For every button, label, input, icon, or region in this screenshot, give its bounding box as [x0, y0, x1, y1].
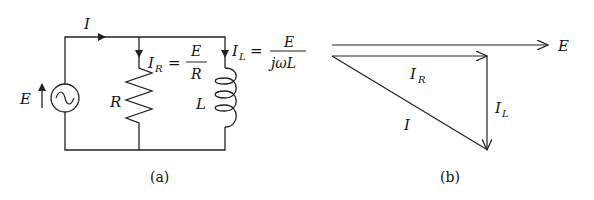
phasor-diagram: E I R I L I (b)	[332, 37, 569, 185]
inductor-label: L	[195, 95, 206, 113]
ir-subscript: R	[154, 63, 163, 74]
source-label: E	[19, 90, 31, 108]
resistor-label: R	[109, 93, 121, 111]
bottom-wire	[65, 112, 225, 150]
il-equals: =	[250, 42, 263, 60]
il-subscript: L	[238, 51, 246, 62]
ir-denominator: R	[190, 66, 202, 82]
ir-arrow-icon	[135, 50, 143, 58]
caption-a: (a)	[150, 169, 169, 185]
il-phasor-label: I L	[494, 99, 509, 119]
circuit-schematic: E I R L I R = E R I L = E jωL (a)	[19, 15, 306, 185]
ac-source-icon	[51, 84, 79, 112]
il-symbol: I	[231, 42, 239, 60]
ir-symbol: I	[147, 54, 155, 72]
ir-phasor-subscript: R	[417, 74, 426, 85]
circuit-figure: E I R L I R = E R I L = E jωL (a)	[0, 0, 594, 200]
ir-equals: =	[168, 54, 181, 72]
i-phasor-arrow	[332, 56, 486, 149]
total-current-label: I	[83, 15, 91, 33]
il-phasor-symbol: I	[494, 99, 502, 117]
e-phasor-label: E	[557, 37, 569, 55]
il-arrow-icon	[221, 50, 229, 58]
ir-phasor-label: I R	[409, 65, 426, 85]
ir-equation: I R = E R	[147, 43, 207, 82]
il-equation: I L = E jωL	[231, 34, 306, 71]
current-arrow-icon	[98, 33, 106, 41]
ir-numerator: E	[190, 43, 201, 59]
i-phasor-label: I	[403, 116, 411, 134]
il-phasor-subscript: L	[501, 108, 509, 119]
caption-b: (b)	[440, 169, 460, 185]
inductor-icon	[215, 68, 236, 127]
il-numerator: E	[283, 34, 294, 50]
ir-phasor-symbol: I	[409, 65, 417, 83]
il-denominator: jωL	[268, 55, 296, 71]
